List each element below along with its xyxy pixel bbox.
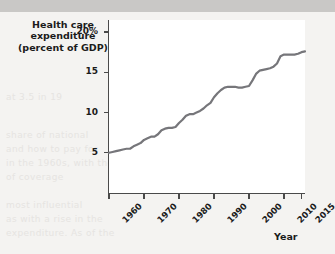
background-text-line: share of national — [6, 130, 89, 140]
series-line-health-care-expenditure — [109, 51, 305, 152]
chart-title-line-3: (percent of GDP) — [18, 42, 108, 53]
chart-title: Health care expenditure (percent of GDP) — [18, 19, 108, 53]
background-text-line: most influential — [6, 200, 83, 210]
y-tick-label: 5 — [52, 147, 98, 157]
data-series-layer — [109, 20, 305, 193]
background-text-line: at 3.5 in 19 — [6, 92, 62, 102]
x-tick-mark — [248, 193, 249, 199]
background-text-line: as with a rise in the — [6, 214, 103, 224]
y-tick-label: 15 — [52, 66, 98, 76]
y-tick-label: 10 — [52, 107, 98, 117]
page-top-band — [0, 0, 335, 12]
x-axis-title: Year — [274, 231, 298, 242]
background-text-line: in the 1960s, with the — [6, 158, 114, 168]
background-text-line: of coverage — [6, 172, 64, 182]
x-tick-mark — [213, 193, 214, 199]
background-text-line: expenditure. As of the — [6, 228, 115, 238]
x-tick-mark — [283, 193, 284, 199]
x-tick-mark — [301, 193, 302, 199]
x-tick-mark — [108, 193, 109, 199]
x-tick-mark — [143, 193, 144, 199]
x-tick-mark — [178, 193, 179, 199]
figure-root: at 3.5 in 19 share of national and how t… — [0, 0, 335, 254]
y-tick-label: 20% — [52, 26, 98, 36]
